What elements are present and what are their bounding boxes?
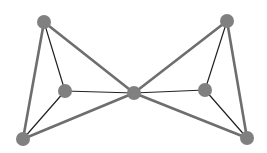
edge-A-D: [23, 22, 44, 139]
graph-diagram: [0, 0, 267, 153]
edge-B-C: [65, 91, 134, 93]
edge-G-C: [134, 93, 247, 138]
node-A: [37, 15, 51, 29]
node-G: [240, 131, 254, 145]
edge-E-F: [205, 21, 227, 90]
edge-A-C: [44, 22, 134, 93]
edges-layer: [23, 21, 247, 139]
node-C: [127, 86, 141, 100]
edge-D-C: [23, 93, 134, 139]
edge-F-C: [134, 90, 205, 93]
node-F: [198, 83, 212, 97]
edge-E-G: [227, 21, 247, 138]
node-E: [220, 14, 234, 28]
node-D: [16, 132, 30, 146]
edge-A-B: [44, 22, 65, 91]
node-B: [58, 84, 72, 98]
edge-E-C: [134, 21, 227, 93]
